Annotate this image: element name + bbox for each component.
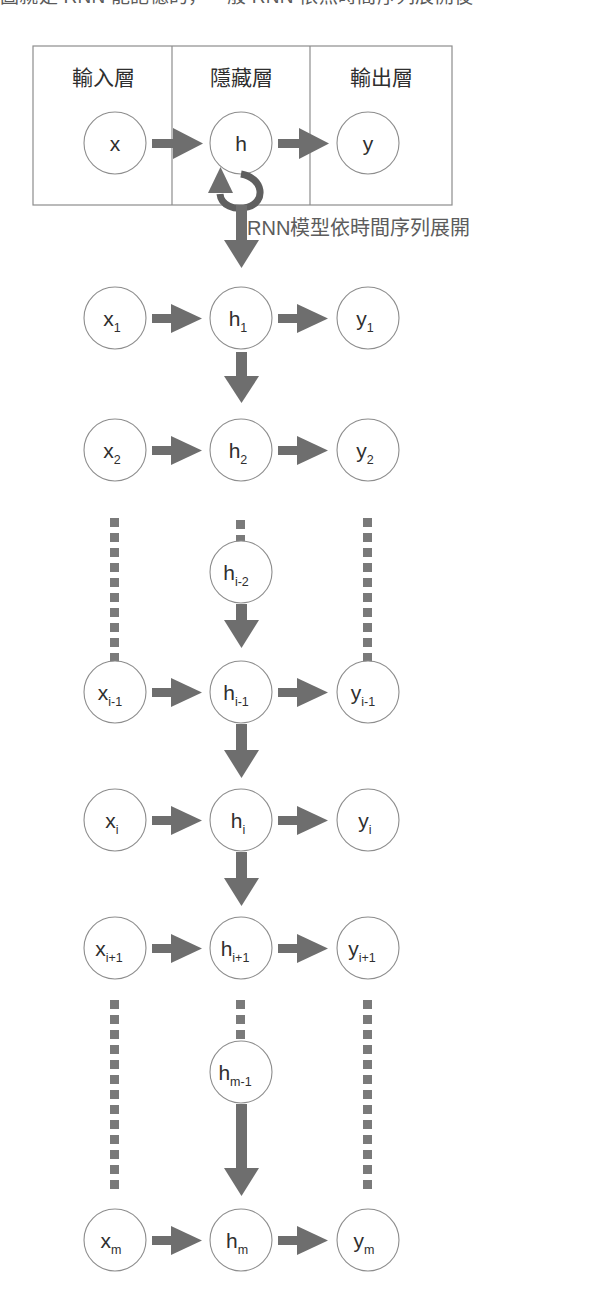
node-circle-hi+1	[210, 917, 272, 979]
arrow-x-to-h-icon	[152, 304, 202, 333]
timestep-row: xi+1 hi+1 yi+1	[84, 917, 399, 979]
timestep-row: xm hm ym	[84, 1209, 399, 1271]
timestep-row: xi hi yi	[84, 789, 399, 851]
arrow-h-to-y-icon	[278, 1226, 328, 1255]
unfold-caption: RNN模型依時間序列展開	[247, 217, 470, 239]
node-circle-x1	[84, 287, 146, 349]
timestep-row: hm-1	[210, 1041, 272, 1103]
arrow-h-down-icon	[224, 724, 259, 778]
arrow-x-to-h-icon	[152, 128, 203, 159]
arrow-x-to-h-icon	[152, 806, 202, 835]
dotted-connector-y-long	[363, 1000, 372, 1189]
layer-heading-output: 輸出層	[350, 66, 413, 89]
node-circle-ym	[337, 1209, 399, 1271]
arrow-x-to-h-icon	[152, 678, 202, 707]
arrow-h-to-y-icon	[278, 678, 328, 707]
node-circle-xi+1	[84, 917, 146, 979]
arrow-x-to-h-icon	[152, 1226, 202, 1255]
diagram-page: 圖就是 RNN 能記憶的，一般 RNN 依照時間序列展開後 輸入層 隱藏層 輸出…	[0, 0, 611, 1309]
arrow-h-to-y-icon	[278, 128, 329, 159]
node-circle-hm	[210, 1209, 272, 1271]
folded-node-x-label: x	[110, 132, 121, 155]
node-circle-xi-1	[84, 661, 146, 723]
node-circle-h1	[210, 287, 272, 349]
node-circle-hi-1	[210, 661, 272, 723]
folded-layer-headings: 輸入層 隱藏層 輸出層	[72, 66, 413, 89]
arrow-h-down-icon	[224, 604, 259, 648]
arrow-h-down-icon	[224, 1104, 259, 1196]
timestep-row: hi-2	[210, 541, 272, 603]
folded-node-h-label: h	[235, 132, 247, 155]
timestep-row: xi-1 hi-1 yi-1	[84, 661, 399, 723]
timestep-row: x1 h1 y1	[84, 287, 399, 349]
dotted-connector-y-long	[363, 518, 372, 662]
arrow-h-down-icon	[224, 352, 259, 403]
node-circle-xm	[84, 1209, 146, 1271]
dotted-connector-x-long	[110, 518, 119, 662]
node-circle-hi-2	[210, 541, 272, 603]
arrow-h-to-y-icon	[278, 304, 328, 333]
arrow-h-to-y-icon	[278, 806, 328, 835]
arrow-h-down-icon	[224, 852, 259, 906]
node-circle-h2	[210, 419, 272, 481]
dotted-connector-h-short	[236, 1000, 245, 1039]
timestep-row: x2 h2 y2	[84, 419, 399, 481]
arrow-h-to-y-icon	[278, 436, 328, 465]
node-circle-yi-1	[337, 661, 399, 723]
arrow-x-to-h-icon	[152, 436, 202, 465]
dotted-connector-x-long	[110, 1000, 119, 1189]
node-circle-x2	[84, 419, 146, 481]
layer-heading-input: 輸入層	[72, 66, 135, 89]
arrow-x-to-h-icon	[152, 934, 202, 963]
node-circle-yi+1	[337, 917, 399, 979]
layer-heading-hidden: 隱藏層	[210, 66, 273, 89]
node-circle-y2	[337, 419, 399, 481]
folded-node-y-label: y	[363, 132, 374, 155]
diagram-canvas: 輸入層 隱藏層 輸出層 x h y	[0, 0, 611, 1309]
folded-nodes: x h y	[84, 112, 399, 174]
node-circle-y1	[337, 287, 399, 349]
arrow-h-to-y-icon	[278, 934, 328, 963]
